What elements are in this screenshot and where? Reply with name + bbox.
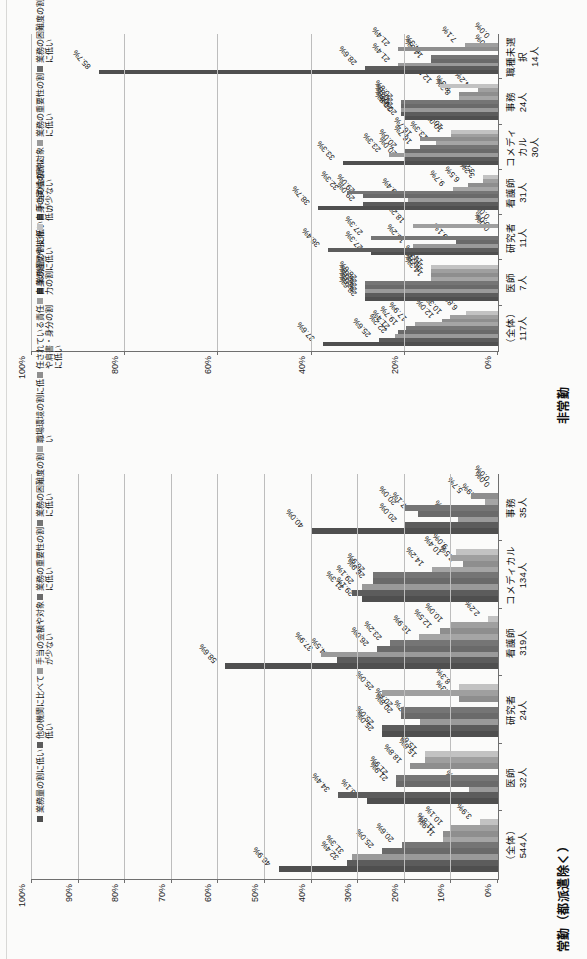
scanned-page: 非常勤 業務量の割に低い手当の金額や対象が少ない業務の重要性の割に低い業務の困難… (0, 0, 587, 959)
bar-slot: 34.4% (32, 792, 498, 798)
bar-slot: 20.8% (32, 707, 498, 713)
y-axis-tick-mark (497, 879, 498, 883)
gridline (404, 474, 405, 879)
bar (365, 289, 498, 293)
bar (431, 277, 498, 281)
bar-set: 25.0%25.0%16.7%20.8%20.8%0.0%8.3%25.0%8.… (32, 684, 498, 737)
bar-slot: 18.8% (32, 763, 498, 769)
y-axis-tick-label: 70% (157, 884, 167, 902)
gridline (124, 34, 125, 351)
bar-group: 28.1%34.4%6.3%21.9%21.9%0.0%18.8%15.6%15… (32, 744, 498, 812)
bar (398, 330, 498, 334)
legend-swatch-icon (37, 298, 43, 304)
bar-slot: 8.3% (32, 696, 498, 702)
legend-item: 任されている責任や肩書・身分の割に低い (36, 304, 64, 378)
bar (459, 696, 498, 702)
y-axis-tick-mark (264, 879, 265, 883)
y-axis-tick-mark (311, 879, 312, 883)
bar-slot: 25.0% (32, 848, 498, 854)
bar-slot: 10.1% (32, 825, 498, 831)
x-axis-group-label: （全体） 544人 (505, 812, 529, 880)
bar-slot: 7.5% (32, 561, 498, 567)
bar (401, 104, 498, 108)
x-axis-group-label: 研究者 24人 (505, 677, 529, 745)
bar-group: 20.0%20.8%20.8%20.8%20.8%8.3%8.3%4.2%12.… (32, 79, 498, 124)
bar (365, 66, 498, 70)
bar-set: 28.1%34.4%6.3%21.9%21.9%0.0%18.8%15.6%15… (32, 751, 498, 804)
bar-set: 38.7%29.0%19.4%29.0%32.3%9.7%6.5%3.2%3.2… (32, 175, 498, 210)
gridline (264, 474, 265, 879)
y-axis-tick-mark (311, 351, 312, 355)
bar (225, 663, 498, 669)
bar-slot: 14.3% (32, 265, 498, 269)
bar-slot: 0.0% (32, 228, 498, 232)
bar (478, 88, 498, 92)
bar (99, 70, 498, 74)
bar (338, 792, 498, 798)
bar (382, 848, 499, 854)
bar (480, 819, 498, 825)
bar-slot: 33.3% (32, 161, 498, 165)
bar-slot: 28.6% (32, 297, 498, 301)
y-axis-tick-mark (404, 879, 405, 883)
bar-slot: 26.0% (32, 646, 498, 652)
bar-slot: 23.3% (32, 153, 498, 157)
bar-slot: 31.3% (32, 854, 498, 860)
bar (420, 719, 498, 725)
bar-groups-hijoukin: 37.6%25.6%22.2%21.4%19.7%17.9%12.0%10.3%… (32, 34, 498, 351)
gridline (497, 474, 498, 879)
bar (431, 55, 498, 59)
legend-item: 自身の実績の割に低い (36, 156, 54, 230)
bar-slot: 8.6% (32, 517, 498, 523)
bar (395, 334, 498, 338)
bar-slot: 0.0% (32, 702, 498, 708)
y-axis-tick-mark (31, 879, 32, 883)
bar-slot: 14.3% (32, 269, 498, 273)
bar (379, 338, 498, 342)
y-axis-tick-label: 10% (436, 884, 446, 902)
bar-slot: 0.0% (32, 51, 498, 55)
bar-set: 20.0%20.8%20.8%20.8%20.8%8.3%8.3%4.2%12.… (32, 84, 498, 119)
bar-slot: 27.3% (32, 236, 498, 240)
bar-group: 37.6%25.6%22.2%21.4%19.7%17.9%12.0%10.3%… (32, 306, 498, 351)
bar-set: 29.1%31.3%29.1%26.9%26.9%14.2%7.5%10.4%9… (32, 549, 498, 602)
gridline (357, 474, 358, 879)
bar-slot: 25.0% (32, 690, 498, 696)
bar (401, 100, 498, 104)
x-axis-group-label: 医師 7人 (505, 260, 529, 305)
legend-item: 職場環境の割に低い (36, 378, 54, 452)
bar (365, 293, 498, 297)
bar-slot: 14.3% (32, 55, 498, 59)
y-axis-tick-label: 80% (110, 356, 120, 374)
gridline (78, 474, 79, 879)
bar (425, 757, 498, 763)
gridline (311, 474, 312, 879)
bar-slot: 28.6% (32, 66, 498, 70)
bar (365, 297, 498, 301)
bar-slot: 16.7% (32, 719, 498, 725)
bar-slot: 20.8% (32, 112, 498, 116)
bar (459, 92, 498, 96)
bar-slot: 21.9% (32, 775, 498, 781)
bar-slot: 25.6% (32, 338, 498, 342)
gridline (450, 474, 451, 879)
bar-set: 28.6%28.6%28.6%28.6%28.6%14.3%14.3%14.3%… (32, 265, 498, 300)
bar-slot: 29.1% (32, 596, 498, 602)
bar (382, 690, 499, 696)
bar (431, 265, 498, 269)
page-edge-rule (6, 0, 7, 959)
bar-group: 28.6%28.6%28.6%28.6%28.6%14.3%14.3%14.3%… (32, 260, 498, 305)
bar (456, 240, 498, 244)
y-axis-tick-mark (497, 351, 498, 355)
bar (469, 787, 498, 793)
x-axis-group-label: 事務 35人 (505, 474, 529, 542)
bar (451, 130, 498, 134)
bar-slot: 2.2% (32, 616, 498, 622)
bar (377, 646, 498, 652)
y-axis-tick-label: 60% (203, 356, 213, 374)
bar (468, 183, 498, 187)
y-axis-tick-label: 40% (297, 884, 307, 902)
y-axis-tick-label: 20% (390, 884, 400, 902)
bar-group: 25.0%25.0%16.7%20.8%20.8%0.0%8.3%25.0%8.… (32, 677, 498, 745)
bar (442, 319, 498, 323)
